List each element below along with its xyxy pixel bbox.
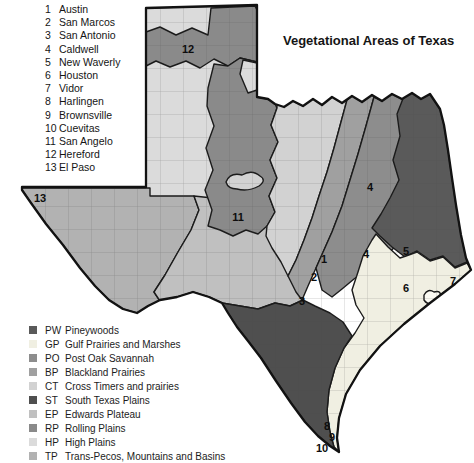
city-number: 7 — [45, 82, 59, 95]
map-marker: 11 — [232, 211, 244, 223]
legend-swatch — [29, 396, 37, 404]
legend-code: TP — [45, 451, 65, 462]
city-key-item: 11San Angelo — [45, 135, 120, 148]
legend-code: CT — [45, 381, 65, 392]
city-name: San Angelo — [59, 135, 113, 147]
city-name: Vidor — [59, 82, 83, 94]
city-number: 1 — [45, 3, 59, 16]
legend-label: Blackland Prairies — [65, 367, 145, 378]
city-name: Austin — [59, 3, 88, 15]
vegetation-legend: PWPineywoods GPGulf Prairies and Marshes… — [29, 323, 225, 463]
city-key-item: 2San Marcos — [45, 16, 120, 29]
map-marker: 13 — [34, 192, 46, 204]
city-key-item: 5New Waverly — [45, 56, 120, 69]
legend-swatch — [29, 368, 37, 376]
city-number: 8 — [45, 95, 59, 108]
city-name: San Marcos — [59, 16, 115, 28]
city-name: San Antonio — [59, 29, 116, 41]
map-marker: 10 — [316, 442, 328, 454]
map-marker: 6 — [403, 282, 409, 294]
page-title: Vegetational Areas of Texas — [283, 33, 454, 48]
legend-code: PW — [45, 325, 65, 336]
map-marker: 5 — [403, 245, 409, 257]
city-name: Brownsville — [59, 109, 112, 121]
legend-item: EPEdwards Plateau — [29, 407, 225, 421]
city-key-list: 1Austin 2San Marcos 3San Antonio 4Caldwe… — [45, 3, 120, 175]
city-name: New Waverly — [59, 56, 120, 68]
city-name: Caldwell — [59, 43, 99, 55]
legend-code: EP — [45, 409, 65, 420]
legend-label: High Plains — [65, 437, 116, 448]
legend-code: PO — [45, 353, 65, 364]
legend-label: Rolling Plains — [65, 423, 126, 434]
map-marker: 1 — [321, 253, 327, 265]
legend-swatch — [29, 452, 37, 460]
city-name: Houston — [59, 69, 98, 81]
map-marker: 2 — [311, 271, 317, 283]
city-name: El Paso — [59, 161, 95, 173]
city-number: 10 — [45, 122, 59, 135]
map-marker: 4 — [367, 181, 374, 193]
legend-swatch — [29, 340, 37, 348]
legend-item: RPRolling Plains — [29, 421, 225, 435]
city-key-item: 8Harlingen — [45, 95, 120, 108]
legend-code: BP — [45, 367, 65, 378]
legend-item: TPTrans-Pecos, Mountains and Basins — [29, 449, 225, 463]
city-number: 9 — [45, 109, 59, 122]
city-number: 3 — [45, 29, 59, 42]
legend-item: STSouth Texas Plains — [29, 393, 225, 407]
map-marker: 3 — [299, 295, 305, 307]
legend-swatch — [29, 354, 37, 362]
legend-item: BPBlackland Prairies — [29, 365, 225, 379]
legend-label: Pineywoods — [65, 325, 119, 336]
city-key-item: 1Austin — [45, 3, 120, 16]
city-key-item: 13El Paso — [45, 161, 120, 174]
legend-swatch — [29, 382, 37, 390]
map-marker: 12 — [182, 43, 194, 55]
city-key-item: 3San Antonio — [45, 29, 120, 42]
map-marker: 7 — [450, 275, 456, 287]
city-key-item: 7Vidor — [45, 82, 120, 95]
legend-label: Post Oak Savannah — [65, 353, 154, 364]
legend-label: South Texas Plains — [65, 395, 150, 406]
city-number: 5 — [45, 56, 59, 69]
city-name: Hereford — [59, 148, 100, 160]
legend-label: Edwards Plateau — [65, 409, 141, 420]
legend-item: GPGulf Prairies and Marshes — [29, 337, 225, 351]
legend-item: PWPineywoods — [29, 323, 225, 337]
city-key-item: 4Caldwell — [45, 43, 120, 56]
map-marker: 9 — [329, 431, 335, 443]
legend-label: Trans-Pecos, Mountains and Basins — [65, 451, 225, 462]
city-number: 6 — [45, 69, 59, 82]
city-name: Harlingen — [59, 95, 104, 107]
legend-label: Cross Timers and prairies — [65, 381, 179, 392]
city-number: 13 — [45, 161, 59, 174]
legend-code: HP — [45, 437, 65, 448]
legend-swatch — [29, 438, 37, 446]
legend-item: HPHigh Plains — [29, 435, 225, 449]
legend-code: GP — [45, 339, 65, 350]
city-name: Cuevitas — [59, 122, 100, 134]
legend-code: ST — [45, 395, 65, 406]
map-marker: 4 — [363, 248, 370, 260]
city-key-item: 10Cuevitas — [45, 122, 120, 135]
city-key-item: 6Houston — [45, 69, 120, 82]
city-key-item: 12Hereford — [45, 148, 120, 161]
city-number: 4 — [45, 43, 59, 56]
city-number: 12 — [45, 148, 59, 161]
legend-swatch — [29, 326, 37, 334]
city-number: 11 — [45, 135, 59, 148]
legend-swatch — [29, 424, 37, 432]
legend-label: Gulf Prairies and Marshes — [65, 339, 181, 350]
city-number: 2 — [45, 16, 59, 29]
legend-item: POPost Oak Savannah — [29, 351, 225, 365]
legend-swatch — [29, 410, 37, 418]
legend-item: CTCross Timers and prairies — [29, 379, 225, 393]
legend-code: RP — [45, 423, 65, 434]
city-key-item: 9Brownsville — [45, 109, 120, 122]
